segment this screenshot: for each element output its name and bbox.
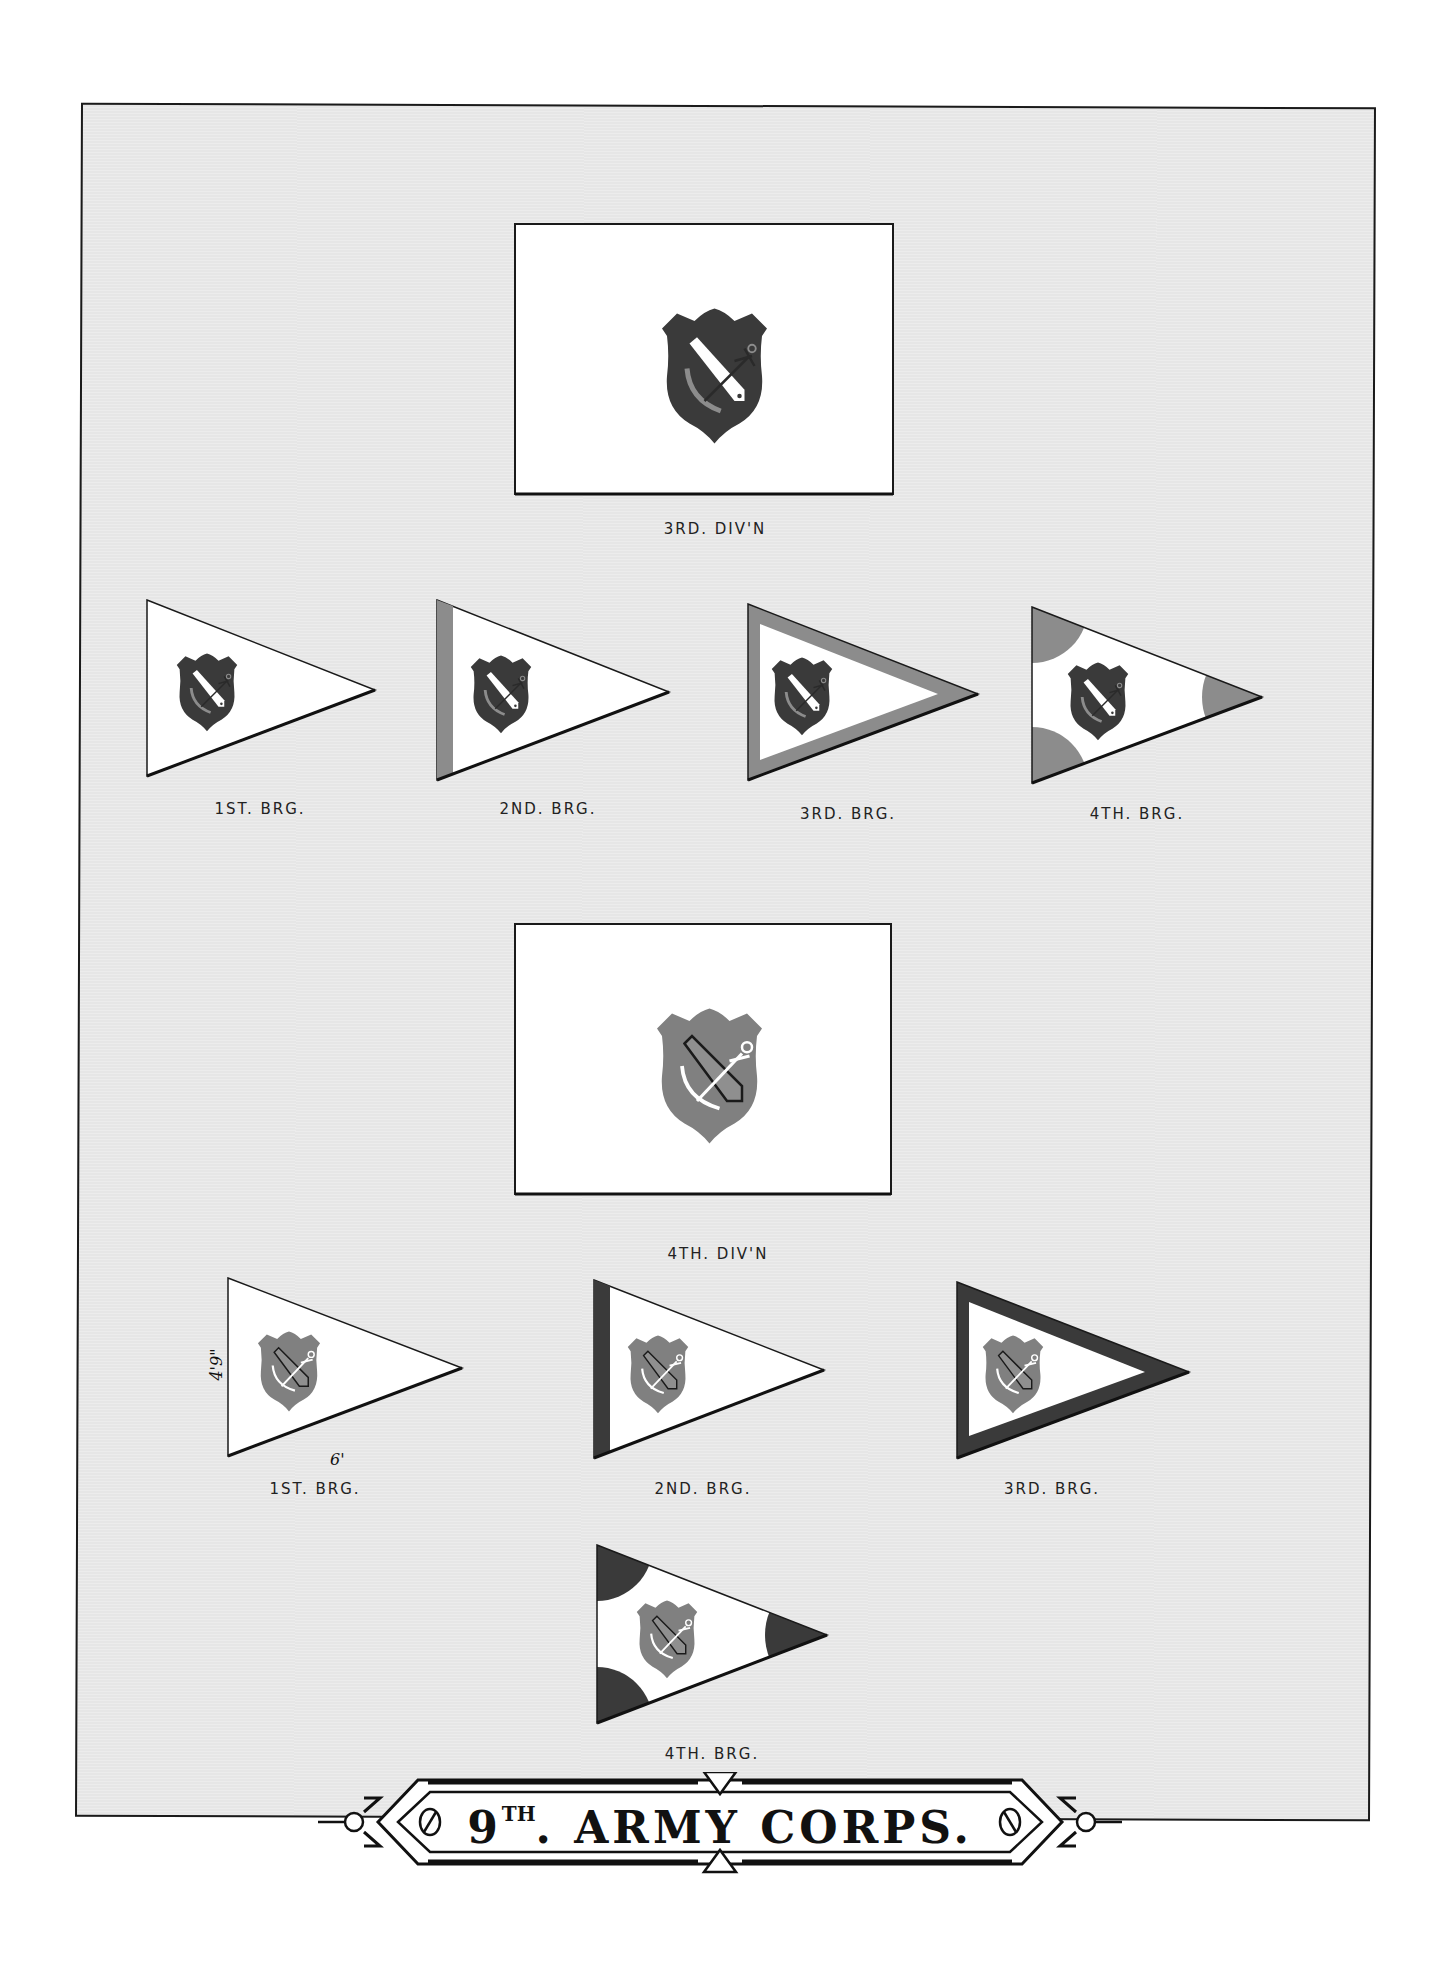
third-division-label: 3RD. DIV'N xyxy=(664,520,767,538)
fourth-div-2nd-brigade-label: 2ND. BRG. xyxy=(655,1480,752,1498)
fourth-div-4th-brigade-label: 4TH. BRG. xyxy=(665,1745,759,1763)
third-div-3rd-brigade-label: 3RD. BRG. xyxy=(800,805,896,823)
fourth-division-label: 4TH. DIV'N xyxy=(668,1245,769,1263)
third-div-4th-brigade-pennant xyxy=(1030,605,1270,785)
fourth-div-3rd-brigade-pennant xyxy=(955,1280,1195,1462)
fourth-div-2nd-brigade-pennant xyxy=(592,1278,832,1462)
fourth-div-1st-brigade-label: 1ST. BRG. xyxy=(269,1480,360,1498)
third-div-1st-brigade-label: 1ST. BRG. xyxy=(214,800,305,818)
length-dimension: 6' xyxy=(330,1450,345,1469)
title-banner: 9TH. ARMY CORPS. xyxy=(318,1772,1122,1882)
height-dimension: 4'9" xyxy=(207,1348,226,1380)
third-div-3rd-brigade-pennant xyxy=(746,602,986,782)
plate-title: 9TH. ARMY CORPS. xyxy=(318,1802,1122,1853)
fourth-div-1st-brigade-pennant xyxy=(226,1276,466,1458)
third-division-flag xyxy=(513,222,895,496)
third-div-4th-brigade-label: 4TH. BRG. xyxy=(1090,805,1184,823)
fourth-division-flag xyxy=(513,922,895,1196)
third-div-1st-brigade-pennant xyxy=(145,598,385,778)
fourth-div-3rd-brigade-label: 3RD. BRG. xyxy=(1004,1480,1100,1498)
fourth-div-4th-brigade-pennant xyxy=(595,1543,835,1727)
third-div-2nd-brigade-pennant xyxy=(435,598,675,784)
third-div-2nd-brigade-label: 2ND. BRG. xyxy=(500,800,597,818)
